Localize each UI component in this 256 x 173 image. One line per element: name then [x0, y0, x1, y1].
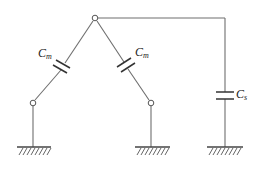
ground-icon	[207, 147, 243, 155]
ground-icon	[135, 147, 170, 155]
ground-icon	[17, 147, 51, 155]
capacitor-cm-middle	[117, 58, 135, 72]
left-diagonal-upper	[65, 21, 93, 63]
right-diagonal-lower	[128, 69, 149, 100]
capacitor-cm-left	[53, 60, 70, 73]
capacitor-cs-right	[216, 92, 234, 99]
right-diagonal-upper	[97, 21, 124, 62]
label-cm-left: Cm	[38, 46, 52, 61]
left-lower-node	[30, 100, 36, 106]
top-node	[92, 15, 98, 21]
left-diagonal-lower	[35, 70, 61, 100]
circuit-diagram: Cm Cm Cs	[0, 0, 256, 173]
middle-lower-node	[148, 100, 154, 106]
label-cs-right: Cs	[236, 87, 247, 102]
label-cm-middle: Cm	[135, 45, 149, 60]
